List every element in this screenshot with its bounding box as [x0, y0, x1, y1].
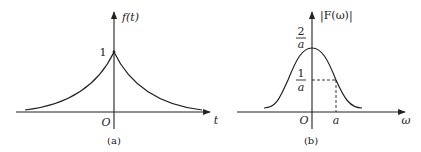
peak-label: 1	[100, 46, 107, 59]
origin-label: O	[101, 116, 110, 129]
peak-tick-numerator: 2	[298, 25, 305, 38]
peak-dot	[113, 51, 116, 54]
caption-b: (b)	[304, 135, 318, 146]
panel-a: f(t) 1 O t (a)	[16, 11, 219, 146]
x-tick-label: a	[333, 114, 340, 127]
half-tick-numerator: 1	[298, 67, 305, 80]
origin-label: O	[299, 114, 308, 127]
y-axis-label: |F(ω)|	[320, 9, 353, 23]
x-axis-label: t	[214, 114, 219, 127]
peak-tick-denominator: a	[298, 38, 305, 51]
figure: f(t) 1 O t (a) |F(ω)| 2 a 1 a O a ω (b)	[0, 0, 421, 152]
lorentzian-curve	[264, 48, 362, 108]
half-tick-denominator: a	[298, 81, 305, 94]
caption-a: (a)	[107, 135, 121, 146]
y-axis-label: f(t)	[121, 11, 139, 24]
panel-b: |F(ω)| 2 a 1 a O a ω (b)	[237, 9, 411, 146]
x-axis-label: ω	[402, 114, 411, 127]
